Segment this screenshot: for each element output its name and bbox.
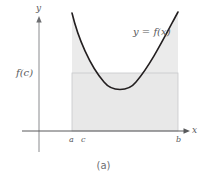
x-tick-label-a: a (69, 136, 74, 144)
x-tick-label-b: b (176, 136, 181, 144)
y-axis-label: y (36, 4, 41, 13)
mean-value-rectangle (72, 73, 178, 131)
f-of-c-label: f(c) (16, 68, 33, 78)
x-axis-arrow-icon (184, 128, 191, 133)
curve-equation-label: y = f(x) (133, 27, 171, 37)
y-axis-arrow-icon (36, 16, 41, 23)
figure-caption: (a) (0, 160, 207, 171)
figure-graphic (0, 0, 207, 178)
x-tick-label-c: c (81, 136, 85, 144)
x-axis-label: x (192, 126, 197, 135)
figure-container: y x f(c) y = f(x) a c b (a) (0, 0, 207, 178)
